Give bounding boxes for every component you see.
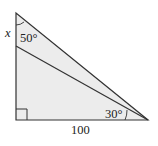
label-angle-right: 30° <box>105 107 123 121</box>
outer-triangle <box>16 13 148 120</box>
label-base: 100 <box>71 123 90 137</box>
geometry-diagram: x 50° 30° 100 <box>0 0 158 146</box>
label-x: x <box>4 26 11 40</box>
label-angle-top: 50° <box>20 31 38 45</box>
